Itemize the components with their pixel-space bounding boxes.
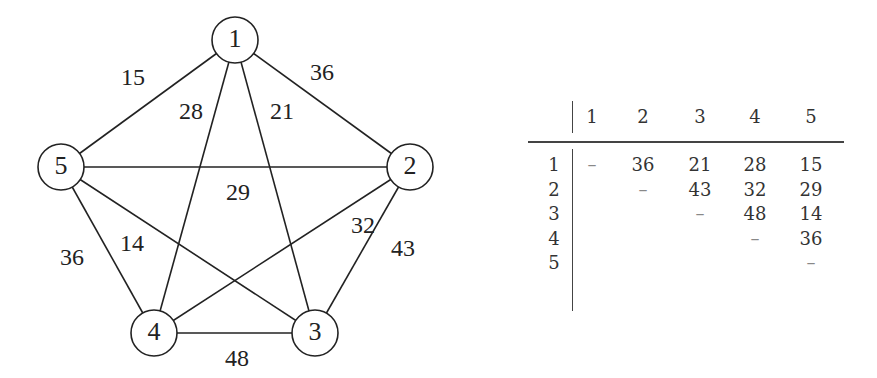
matrix-cell: 28 (735, 154, 775, 175)
column-header: 4 (735, 106, 775, 127)
column-header: 3 (680, 106, 720, 127)
node-1: 1 (212, 17, 258, 63)
edge-weight-label: 14 (120, 230, 144, 256)
node-label: 3 (309, 317, 322, 346)
matrix-cell: – (572, 154, 612, 175)
header-divider (572, 101, 573, 133)
row-label-divider (572, 149, 573, 311)
matrix-cell: – (791, 252, 831, 273)
matrix-cell: 43 (680, 178, 720, 199)
node-2: 2 (387, 144, 433, 190)
matrix-cell: 36 (791, 227, 831, 248)
column-header: 5 (791, 106, 831, 127)
matrix-cell: 48 (735, 203, 775, 224)
edge-1-5 (61, 40, 235, 167)
edge-weight-label: 29 (226, 179, 250, 205)
node-4: 4 (131, 310, 177, 356)
row-header: 1 (534, 154, 574, 175)
matrix-cell: – (680, 203, 720, 224)
matrix-cell: – (623, 178, 663, 199)
header-rule (528, 141, 844, 143)
edge-weight-label: 28 (179, 98, 203, 124)
row-header: 4 (534, 227, 574, 248)
row-header: 5 (534, 252, 574, 273)
node-label: 1 (229, 24, 242, 53)
matrix-cell: 29 (791, 178, 831, 199)
node-5: 5 (38, 144, 84, 190)
matrix-cell: 15 (791, 154, 831, 175)
edge-weight-label: 21 (270, 98, 294, 124)
column-header: 2 (623, 106, 663, 127)
matrix-cell: 14 (791, 203, 831, 224)
edge-weight-label: 36 (60, 244, 84, 270)
matrix-cell: – (735, 227, 775, 248)
matrix-cell: 32 (735, 178, 775, 199)
row-header: 3 (534, 203, 574, 224)
edge-weight-label: 48 (225, 345, 249, 371)
weighted-graph: 15362821293614324348 12345 (0, 0, 470, 378)
edge-weight-label: 15 (121, 64, 145, 90)
matrix-cell: 21 (680, 154, 720, 175)
node-3: 3 (292, 310, 338, 356)
node-label: 2 (404, 151, 417, 180)
node-label: 4 (148, 317, 161, 346)
column-header: 1 (572, 106, 612, 127)
row-header: 2 (534, 178, 574, 199)
node-label: 5 (55, 151, 68, 180)
graph-edge-labels: 15362821293614324348 (60, 59, 415, 371)
edge-weight-label: 32 (351, 212, 375, 238)
edge-weight-label: 36 (310, 59, 334, 85)
matrix-cell: 36 (623, 154, 663, 175)
edge-weight-label: 43 (391, 235, 415, 261)
